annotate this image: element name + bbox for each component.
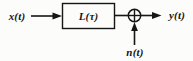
system-block-label: L(τ) xyxy=(79,11,99,22)
noise-arrowhead-icon xyxy=(131,22,138,31)
noise-signal-label: n(t) xyxy=(126,47,143,58)
input-arrowhead-icon xyxy=(53,13,63,20)
output-signal-label: y(t) xyxy=(169,10,185,21)
input-signal-label: x(t) xyxy=(9,11,26,22)
output-arrowhead-icon xyxy=(152,12,162,19)
block-diagram: x(t) L(τ) y(t) n(t) xyxy=(0,0,193,61)
